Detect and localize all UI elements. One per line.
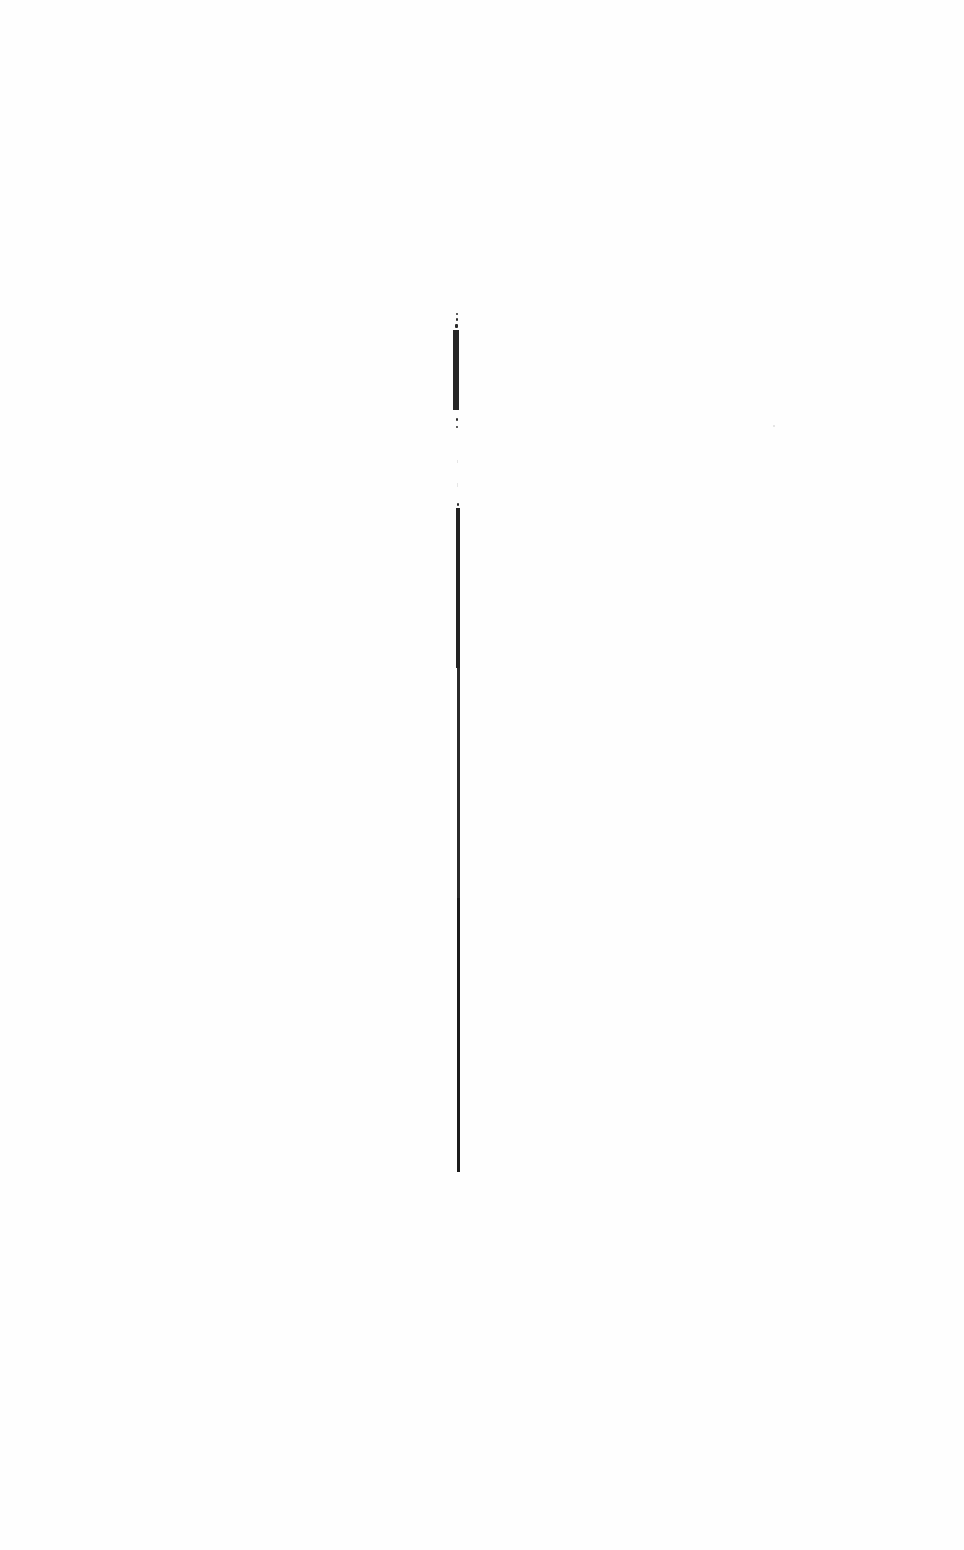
vertical-line-lower-segment <box>456 508 460 668</box>
line-speck <box>455 324 458 328</box>
vertical-line-lower-segment <box>457 668 460 898</box>
faint-mark <box>457 460 458 463</box>
vertical-line-lower-segment <box>457 898 460 1172</box>
line-speck <box>456 426 458 428</box>
faint-mark <box>457 483 458 487</box>
vertical-line-top-segment <box>453 330 459 410</box>
blank-page <box>0 0 964 1550</box>
line-speck <box>456 318 458 321</box>
line-speck <box>456 418 458 421</box>
line-speck <box>456 313 458 315</box>
faint-mark <box>773 425 775 427</box>
line-speck <box>457 503 459 506</box>
